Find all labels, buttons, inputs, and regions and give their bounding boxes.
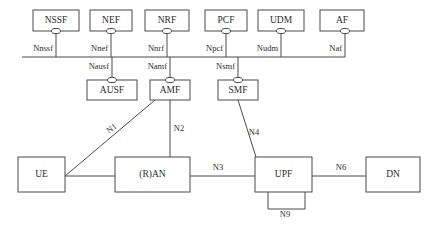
connector-nrf (163, 28, 172, 33)
interface-label-namf: Namf (148, 61, 168, 71)
label-upf: UPF (275, 169, 292, 179)
reference-point-label-n6: N6 (336, 162, 346, 172)
reference-point-lines (65, 100, 366, 209)
label-ran: (R)AN (139, 169, 166, 180)
interface-label-nnef: Nnef (91, 43, 108, 53)
n9-loop (268, 192, 305, 209)
reference-point-label-n2: N2 (174, 123, 184, 133)
diagram-canvas: NnssfNnefNnrfNpcfNudmNaf NSSFNEFNRFPCFUD… (0, 0, 428, 228)
label-ue: UE (35, 169, 48, 179)
label-nef: NEF (102, 15, 120, 25)
interface-label-nausf: Nausf (89, 61, 109, 71)
interface-label-npcf: Npcf (206, 43, 223, 53)
connector-amf (166, 77, 175, 82)
interface-label-nudm: Nudm (257, 43, 279, 53)
label-dn: DN (386, 169, 400, 179)
reference-point-label-n9: N9 (280, 209, 290, 219)
top-row-interface-labels: NnssfNnefNnrfNpcfNudmNaf (33, 43, 342, 53)
label-nrf: NRF (158, 15, 176, 25)
connector-smf (234, 77, 243, 82)
interface-label-nnrf: Nnrf (148, 43, 164, 53)
label-amf: AMF (160, 85, 181, 95)
network-architecture-diagram: NnssfNnefNnrfNpcfNudmNaf NSSFNEFNRFPCFUD… (0, 0, 428, 228)
reference-point-label-n3: N3 (213, 162, 223, 172)
connector-nssf (52, 28, 61, 33)
connector-nef (107, 28, 116, 33)
interface-label-nsmf: Nsmf (216, 61, 235, 71)
label-nssf: NSSF (45, 15, 68, 25)
connector-ausf (108, 77, 117, 82)
interface-label-naf: Naf (329, 43, 342, 53)
label-smf: SMF (228, 85, 247, 95)
connector-pcf (222, 28, 231, 33)
connector-udm (277, 28, 286, 33)
label-ausf: AUSF (100, 85, 124, 95)
label-pcf: PCF (218, 15, 235, 25)
top-row-boxes (33, 10, 364, 31)
reference-point-label-n4: N4 (249, 127, 260, 137)
middle-row-interface-labels: NausfNamfNsmf (89, 61, 235, 71)
label-udm: UDM (270, 15, 293, 25)
label-af: AF (336, 15, 348, 25)
interface-label-nnssf: Nnssf (33, 43, 53, 53)
connector-af (341, 28, 350, 33)
